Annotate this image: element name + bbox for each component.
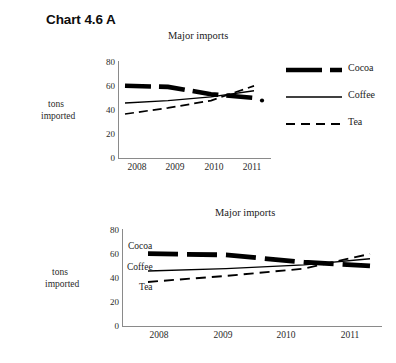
chart-b-xtick-2008: 2008: [139, 330, 179, 340]
chart-a-endpoint-dot: [260, 98, 264, 102]
chart-a-series-tea: [125, 86, 254, 114]
chart-a-xtick-2009: 2009: [155, 162, 195, 172]
chart-a-xtick-2011: 2011: [232, 162, 272, 172]
chart-panel-b: ✓ Chart 4.6 B Major imports 80 60 40 20 …: [0, 185, 396, 363]
legend-label-coffee: Coffee: [348, 89, 375, 100]
chart-b-series-coffee: [148, 259, 370, 271]
chart-b-inline-label-cocoa: Cocoa: [128, 241, 152, 251]
chart-b-xtick-2011: 2011: [330, 330, 370, 340]
legend-swatch-coffee-solid: [286, 94, 342, 100]
chart-b-xtick-2009: 2009: [203, 330, 243, 340]
chart-b-series-tea: [148, 254, 370, 282]
chart-a-legend: Cocoa Coffee Tea: [286, 62, 396, 142]
chart-panel-a: Chart 4.6 A Major imports 80 60 40 20 0 …: [0, 0, 396, 185]
chart-a-xtick-2010: 2010: [194, 162, 234, 172]
chart-b-inline-label-coffee: Coffee: [127, 262, 153, 272]
legend-swatch-tea-dashed: [286, 121, 342, 127]
legend-label-cocoa: Cocoa: [348, 62, 374, 73]
chart-b-inline-label-tea: Tea: [139, 282, 153, 292]
legend-swatch-cocoa-thick-dashed: [286, 67, 342, 73]
chart-b-xtick-2010: 2010: [266, 330, 306, 340]
chart-b-series-cocoa: [148, 254, 370, 266]
chart-a-xtick-2008: 2008: [117, 162, 157, 172]
legend-label-tea: Tea: [348, 116, 362, 127]
